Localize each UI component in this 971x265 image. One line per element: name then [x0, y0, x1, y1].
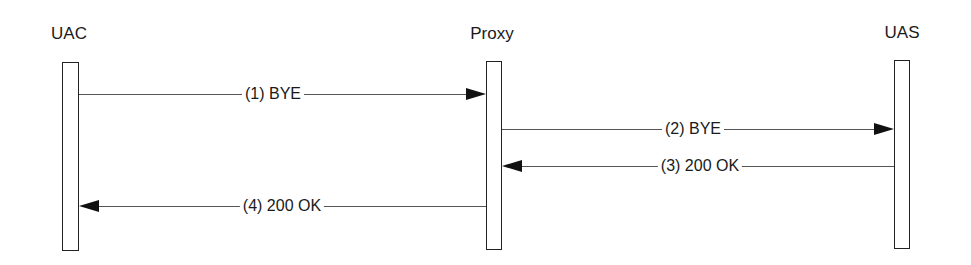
message-label: (2) BYE [662, 120, 724, 138]
participant-label-uac: UAC [51, 24, 87, 44]
lifeline-proxy [486, 61, 502, 250]
lifeline-uas [894, 60, 910, 249]
arrow-right-icon [466, 88, 486, 100]
message-label: (4) 200 OK [240, 197, 324, 215]
arrow-right-icon [874, 123, 894, 135]
lifeline-uac [62, 62, 79, 251]
message-label: (1) BYE [242, 85, 304, 103]
arrow-left-icon [502, 160, 522, 172]
participant-label-proxy: Proxy [470, 24, 513, 44]
arrow-left-icon [79, 200, 99, 212]
participant-label-uas: UAS [885, 23, 920, 43]
message-label: (3) 200 OK [658, 157, 742, 175]
